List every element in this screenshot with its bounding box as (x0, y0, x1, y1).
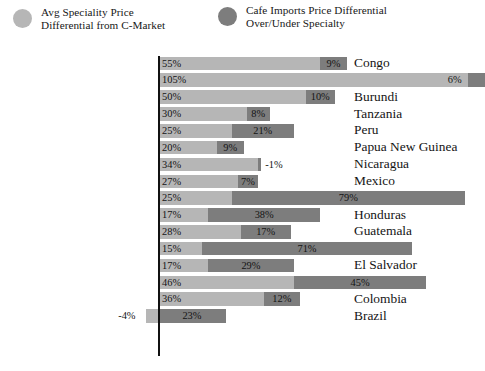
category-label-text: Mexico (354, 173, 395, 190)
chart-legend: Avg Speciality Price Differential from C… (0, 0, 472, 52)
category-label-text: Honduras (354, 207, 406, 224)
bar-value-label-secondary: 45% (294, 276, 427, 290)
category-label: Brazil (332, 308, 472, 325)
bar-segment-primary (158, 57, 320, 71)
bar-value-label-primary: 105% (162, 73, 186, 87)
chart-row: Colombia36%12% (0, 291, 472, 308)
bar-value-label-primary: 46% (162, 276, 181, 290)
bar-value-label-secondary: 7% (238, 175, 259, 189)
category-label: Tanzania (332, 106, 472, 123)
chart-row: Rwanda105%6% (0, 72, 472, 89)
bar-value-label-primary: 15% (162, 242, 181, 256)
category-label-text: Brazil (354, 308, 387, 325)
bar-segment-primary (158, 73, 468, 87)
category-label-text: Tanzania (354, 106, 402, 123)
category-label-text: Nicaragua (354, 156, 409, 173)
bar-value-label-secondary: 9% (217, 141, 244, 155)
category-label: Honduras (332, 207, 472, 224)
chart-row: Nicaragua34%-1% (0, 156, 472, 173)
bar-segment-primary (146, 309, 158, 323)
bar-value-label-primary: 50% (162, 90, 181, 104)
category-label: Congo (332, 55, 472, 72)
chart-row: Peru25%21% (0, 122, 472, 139)
category-label: Guatemala (332, 223, 472, 240)
chart-row: Honduras17%38% (0, 207, 472, 224)
bar-value-label-secondary: 8% (247, 107, 271, 121)
bar-value-label-secondary: 21% (232, 124, 294, 138)
bar-value-label-primary: 27% (162, 175, 181, 189)
category-label: Colombia (332, 291, 472, 308)
bar-segment-secondary (468, 73, 485, 87)
circle-swatch-icon (13, 9, 32, 28)
category-label: El Salvador (332, 257, 472, 274)
chart-row: Mexico27%7% (0, 173, 472, 190)
legend-item-avg-speciality-price: Avg Speciality Price Differential from C… (13, 6, 165, 31)
chart-row: Tanzania30%8% (0, 106, 472, 123)
legend-item-label: Avg Speciality Price Differential from C… (41, 6, 165, 31)
bar-value-label-secondary: 71% (202, 242, 411, 256)
zero-axis-line (158, 56, 160, 356)
bar-value-label-secondary: 10% (306, 90, 336, 104)
bar-value-label-primary: 20% (162, 141, 181, 155)
category-label: Mexico (332, 173, 472, 190)
bar-value-label-secondary: 17% (241, 225, 291, 239)
bar-segment-secondary (258, 158, 261, 172)
category-label-text: Peru (354, 122, 379, 139)
category-label: Nicaragua (332, 156, 472, 173)
bar-value-label-primary: 34% (162, 158, 181, 172)
category-label-text: El Salvador (354, 257, 417, 274)
category-label: Burundi (332, 89, 472, 106)
chart-row: Congo55%9% (0, 55, 472, 72)
chart-row: Costa Rica46%45% (0, 274, 472, 291)
category-label: Papua New Guinea (332, 139, 472, 156)
chart-row: Guatemala28%17% (0, 223, 472, 240)
category-label-text: Congo (354, 55, 390, 72)
stacked-bar-chart: Congo55%9%Rwanda105%6%Burundi50%10%Tanza… (0, 55, 472, 360)
category-label: Peru (332, 122, 472, 139)
bar-value-label-secondary: 12% (264, 292, 299, 306)
category-label-text: Colombia (354, 291, 407, 308)
bar-value-label-primary: -4% (118, 309, 135, 323)
bar-value-label-primary: 17% (162, 208, 181, 222)
bar-value-label-primary: 55% (162, 57, 181, 71)
bar-value-label-secondary: 23% (158, 309, 226, 323)
bar-value-label-secondary: 79% (232, 191, 465, 205)
bar-value-label-primary: 28% (162, 225, 181, 239)
category-label-text: Burundi (354, 89, 398, 106)
chart-row: Kenya25%79% (0, 190, 472, 207)
bar-value-label-primary: 36% (162, 292, 181, 306)
legend-item-cafe-imports-price: Cafe Imports Price Differential Over/Und… (218, 4, 387, 29)
bar-value-label-primary: 30% (162, 107, 181, 121)
bar-value-label-secondary: 29% (208, 259, 294, 273)
chart-row: Papua New Guinea20%9% (0, 139, 472, 156)
chart-row: Burundi50%10% (0, 89, 472, 106)
bar-value-label-primary: 25% (162, 191, 181, 205)
bar-value-label-secondary: -1% (265, 158, 282, 172)
bar-value-label-primary: 25% (162, 124, 181, 138)
bar-value-label-primary: 17% (162, 259, 181, 273)
chart-row: El Salvador17%29% (0, 257, 472, 274)
bar-value-label-secondary: 9% (320, 57, 347, 71)
category-label-text: Guatemala (354, 223, 412, 240)
chart-row: Ethiopia15%71% (0, 240, 472, 257)
bar-value-label-secondary: 6% (446, 73, 464, 87)
chart-row: Brazil-4%23% (0, 308, 472, 325)
bar-value-label-secondary: 38% (208, 208, 320, 222)
circle-swatch-icon (218, 7, 237, 26)
category-label-text: Papua New Guinea (354, 139, 457, 156)
legend-item-label: Cafe Imports Price Differential Over/Und… (246, 4, 387, 29)
chart-rows: Congo55%9%Rwanda105%6%Burundi50%10%Tanza… (0, 55, 472, 325)
